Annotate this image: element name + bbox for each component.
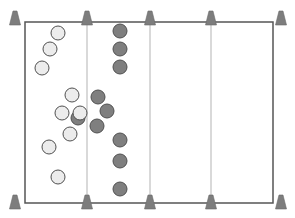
cone-icon — [82, 11, 93, 25]
drill-diagram — [0, 0, 295, 218]
player-dark — [113, 133, 127, 147]
cone-icon — [145, 195, 156, 209]
player-light — [35, 61, 49, 75]
player-dark — [113, 24, 127, 38]
player-light — [73, 106, 87, 120]
player-light — [63, 127, 77, 141]
player-dark — [90, 119, 104, 133]
player-dark — [113, 42, 127, 56]
player-dark — [113, 182, 127, 196]
player-light — [51, 170, 65, 184]
cone-icon — [10, 195, 21, 209]
player-light — [51, 26, 65, 40]
player-light — [43, 42, 57, 56]
team-light-players — [35, 26, 87, 184]
player-dark — [91, 90, 105, 104]
player-dark — [113, 154, 127, 168]
player-light — [42, 140, 56, 154]
player-light — [55, 106, 69, 120]
cone-icon — [206, 11, 217, 25]
cone-icon — [10, 11, 21, 25]
cone-icon — [206, 195, 217, 209]
player-light — [65, 88, 79, 102]
player-dark — [113, 60, 127, 74]
cone-icon — [145, 11, 156, 25]
player-dark — [100, 104, 114, 118]
cone-icon — [82, 195, 93, 209]
cone-icon — [276, 195, 287, 209]
cone-icon — [276, 11, 287, 25]
